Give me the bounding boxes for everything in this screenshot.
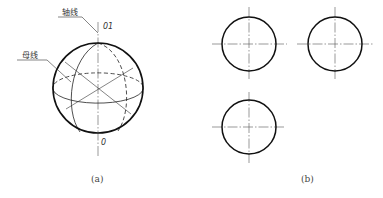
caption-a: (a) [91, 174, 103, 184]
drawing-canvas: 轴线 母线 01 0 (a) (b) [0, 0, 383, 198]
meridian-front [71, 43, 98, 132]
caption-b: (b) [301, 174, 314, 184]
top-view [212, 92, 286, 163]
label-axis-line: 轴线 [62, 7, 78, 17]
side-view [297, 7, 373, 80]
front-view [212, 7, 287, 80]
leader-axis-line [58, 17, 98, 33]
figure-b: (b) [212, 7, 373, 184]
label-point-0: 0 [101, 138, 106, 147]
figure-a: 轴线 母线 01 0 (a) [17, 7, 143, 184]
label-point-01: 01 [103, 22, 113, 31]
label-generatrix: 母线 [22, 50, 38, 60]
